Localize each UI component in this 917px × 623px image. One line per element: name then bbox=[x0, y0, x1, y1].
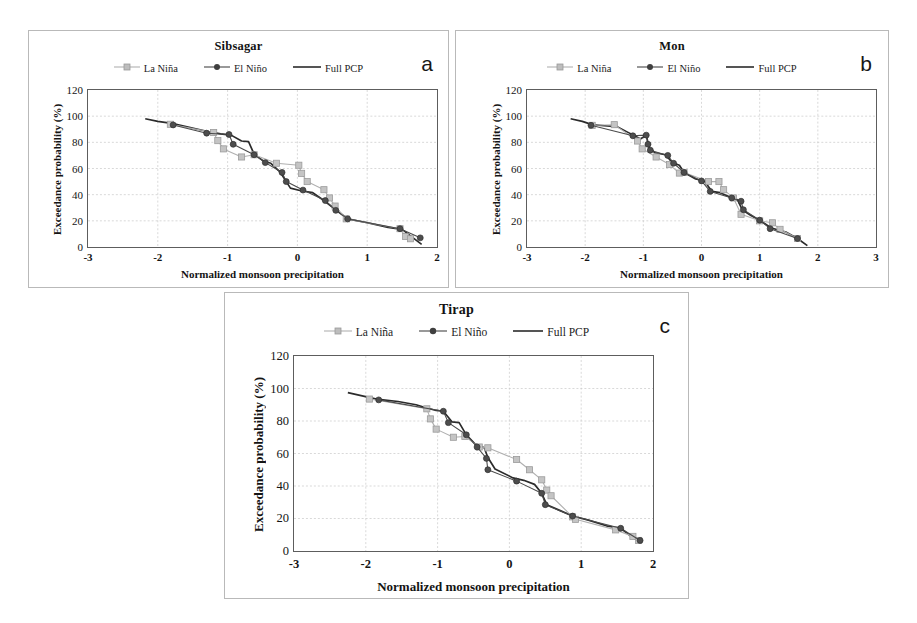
x-tick: 1 bbox=[364, 251, 370, 263]
x-tick: 0 bbox=[506, 557, 512, 572]
legend-label: Full PCP bbox=[547, 326, 589, 338]
x-tick: 0 bbox=[699, 251, 705, 263]
legend-item-full-pcp: Full PCP bbox=[513, 326, 589, 338]
legend-item-full-pcp: Full PCP bbox=[293, 62, 363, 74]
x-tick: -1 bbox=[432, 557, 442, 572]
y-tick: 120 bbox=[270, 349, 289, 364]
x-axis-label: Normalized monsoon precipitation bbox=[293, 579, 654, 595]
legend-label: Full PCP bbox=[758, 63, 796, 74]
x-tick: -3 bbox=[83, 251, 92, 263]
legend-label: La Niña bbox=[577, 63, 611, 74]
panel-tirap: Tirap c La Niña El Niño Full PCP bbox=[224, 292, 689, 599]
y-tick: 100 bbox=[506, 110, 523, 122]
y-tick: 80 bbox=[277, 413, 290, 428]
legend-label: La Niña bbox=[144, 63, 178, 74]
y-tick: 20 bbox=[72, 215, 83, 227]
legend-label: El Niño bbox=[234, 63, 267, 74]
legend-item-la-nina: La Niña bbox=[547, 62, 611, 74]
plot-area-sibsagar: 0 20 40 60 80 100 120 -3 -2 -1 0 1 2 bbox=[87, 89, 438, 248]
full-pcp-key-icon bbox=[513, 326, 543, 338]
plot-svg bbox=[88, 90, 437, 247]
x-tick: -2 bbox=[153, 251, 162, 263]
y-tick: 40 bbox=[72, 189, 83, 201]
legend-label: Full PCP bbox=[325, 63, 363, 74]
x-tick: 0 bbox=[295, 251, 301, 263]
x-tick: -2 bbox=[581, 251, 590, 263]
legend: La Niña El Niño Full PCP bbox=[225, 326, 688, 338]
y-axis-label: Exceedance probability (%) bbox=[51, 85, 63, 253]
panel-sibsagar: Sibsagar a La Niña El Niño Full PCP bbox=[28, 30, 449, 288]
plot-svg bbox=[294, 356, 653, 551]
figure-exceedance-probability: Sibsagar a La Niña El Niño Full PCP bbox=[0, 0, 917, 623]
y-axis-label: Exceedance probability (%) bbox=[251, 351, 267, 557]
y-tick: 60 bbox=[72, 163, 83, 175]
full-pcp-key-icon bbox=[293, 62, 321, 74]
x-axis-label: Normalized monsoon precipitation bbox=[526, 268, 877, 280]
panel-mon: Mon b La Niña El Niño Full PCP bbox=[455, 30, 889, 288]
x-tick: -2 bbox=[361, 557, 371, 572]
y-tick: 20 bbox=[277, 511, 290, 526]
plot-area-mon: 0 20 40 60 80 100 120 -3 -2 -1 0 1 2 3 bbox=[526, 89, 877, 248]
legend-item-el-nino: El Niño bbox=[419, 326, 487, 338]
la-nina-key-icon bbox=[547, 62, 573, 74]
y-tick: 80 bbox=[511, 136, 522, 148]
legend-item-la-nina: La Niña bbox=[114, 62, 178, 74]
legend-item-full-pcp: Full PCP bbox=[726, 62, 796, 74]
y-tick: 120 bbox=[67, 84, 84, 96]
y-axis-label: Exceedance probability (%) bbox=[490, 85, 502, 253]
legend-label: El Niño bbox=[451, 326, 487, 338]
x-tick: -3 bbox=[522, 251, 531, 263]
x-tick: 2 bbox=[815, 251, 821, 263]
legend: La Niña El Niño Full PCP bbox=[456, 62, 888, 74]
legend-label: El Niño bbox=[667, 63, 700, 74]
legend-label: La Niña bbox=[356, 326, 393, 338]
legend-item-el-nino: El Niño bbox=[637, 62, 700, 74]
legend-item-la-nina: La Niña bbox=[324, 326, 393, 338]
legend-item-el-nino: El Niño bbox=[204, 62, 267, 74]
x-axis-label: Normalized monsoon precipitation bbox=[87, 268, 438, 280]
x-tick: -1 bbox=[639, 251, 648, 263]
y-tick: 0 bbox=[517, 241, 523, 253]
y-tick: 60 bbox=[511, 163, 522, 175]
y-tick: 80 bbox=[72, 136, 83, 148]
y-tick: 0 bbox=[78, 241, 84, 253]
panel-title: Mon bbox=[456, 39, 888, 54]
panel-title: Sibsagar bbox=[29, 39, 448, 54]
legend: La Niña El Niño Full PCP bbox=[29, 62, 448, 74]
y-tick: 40 bbox=[511, 189, 522, 201]
panel-title: Tirap bbox=[225, 302, 688, 318]
y-tick: 120 bbox=[506, 84, 523, 96]
la-nina-key-icon bbox=[324, 326, 352, 338]
el-nino-key-icon bbox=[204, 62, 230, 74]
y-tick: 100 bbox=[67, 110, 84, 122]
x-tick: 1 bbox=[757, 251, 763, 263]
la-nina-key-icon bbox=[114, 62, 140, 74]
x-tick: -1 bbox=[223, 251, 232, 263]
x-tick: 3 bbox=[873, 251, 879, 263]
el-nino-key-icon bbox=[419, 326, 447, 338]
x-tick: 2 bbox=[650, 557, 656, 572]
plot-svg bbox=[527, 90, 876, 247]
y-tick: 100 bbox=[270, 381, 289, 396]
y-tick: 40 bbox=[277, 479, 290, 494]
x-tick: 2 bbox=[434, 251, 440, 263]
plot-area-tirap: 0 20 40 60 80 100 120 -3 -2 -1 0 1 2 bbox=[293, 355, 654, 552]
x-tick: 1 bbox=[578, 557, 584, 572]
full-pcp-key-icon bbox=[726, 62, 754, 74]
y-tick: 20 bbox=[511, 215, 522, 227]
y-tick: 60 bbox=[277, 446, 290, 461]
x-tick: -3 bbox=[289, 557, 299, 572]
el-nino-key-icon bbox=[637, 62, 663, 74]
